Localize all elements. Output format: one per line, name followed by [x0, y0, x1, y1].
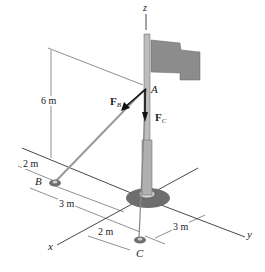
force-label-FC: FC — [155, 112, 166, 125]
cable-AB — [55, 88, 146, 182]
dimension-c-offset-2m: 2 m — [97, 227, 114, 237]
force-arrow-FB — [121, 89, 146, 111]
axis-label-y: y — [247, 229, 252, 240]
dimension-c-3m: 3 m — [172, 222, 189, 232]
point-label-B: B — [35, 176, 42, 187]
axis-label-z: z — [143, 3, 147, 13]
force-label-FB: FB — [110, 96, 121, 109]
axis-line-y — [148, 200, 245, 237]
dimension-b-offset-2m: 2 m — [22, 159, 39, 169]
dimension-height-6m: 6 m — [40, 96, 57, 106]
axes — [22, 14, 245, 245]
flag — [151, 40, 200, 80]
axis-label-x: x — [48, 241, 53, 252]
point-label-A: A — [151, 84, 158, 95]
flagpole-diagram — [0, 0, 265, 272]
dimension-lines — [18, 48, 205, 250]
dimension-b-3m: 3 m — [58, 199, 75, 209]
axis-line-x — [57, 168, 198, 245]
point-label-C: C — [136, 248, 143, 259]
